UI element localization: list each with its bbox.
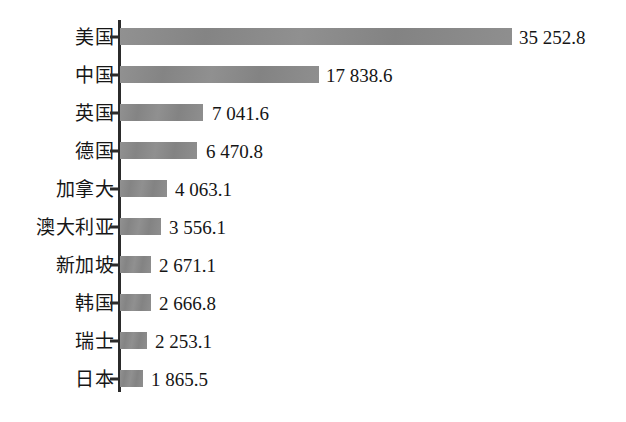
bar[interactable] — [120, 66, 319, 83]
category-label: 加拿大 — [56, 179, 115, 198]
category-label: 韩国 — [75, 293, 114, 312]
bar[interactable] — [120, 370, 143, 387]
plot-area: 美国 35 252.8 中国 17 838.6 英国 7 041.6 德国 6 … — [0, 0, 626, 422]
bar-row[interactable]: 日本 1 865.5 — [0, 370, 626, 387]
category-label: 美国 — [75, 27, 114, 46]
bar-row[interactable]: 德国 6 470.8 — [0, 142, 626, 159]
value-label: 6 470.8 — [206, 141, 263, 160]
bar[interactable] — [120, 294, 151, 311]
category-label: 日本 — [75, 369, 114, 388]
category-label: 澳大利亚 — [36, 217, 114, 236]
value-label: 7 041.6 — [212, 103, 269, 122]
value-label: 1 865.5 — [151, 369, 208, 388]
category-label: 新加坡 — [56, 255, 115, 274]
bar[interactable] — [120, 218, 161, 235]
page-footer-fragment — [0, 414, 626, 422]
bar-row[interactable]: 韩国 2 666.8 — [0, 294, 626, 311]
value-label: 35 252.8 — [519, 27, 586, 46]
value-label: 2 666.8 — [159, 293, 216, 312]
bar[interactable] — [120, 104, 203, 121]
bar-row[interactable]: 中国 17 838.6 — [0, 66, 626, 83]
bar-row[interactable]: 加拿大 4 063.1 — [0, 180, 626, 197]
value-label: 2 253.1 — [155, 331, 212, 350]
category-label: 德国 — [75, 141, 114, 160]
category-label: 英国 — [75, 103, 114, 122]
bar[interactable] — [120, 180, 167, 197]
bar-row[interactable]: 美国 35 252.8 — [0, 28, 626, 45]
bar[interactable] — [120, 28, 512, 45]
bar[interactable] — [120, 256, 151, 273]
bar-row[interactable]: 英国 7 041.6 — [0, 104, 626, 121]
bar-row[interactable]: 澳大利亚 3 556.1 — [0, 218, 626, 235]
value-label: 3 556.1 — [169, 217, 226, 236]
bar[interactable] — [120, 142, 197, 159]
horizontal-bar-chart: 美国 35 252.8 中国 17 838.6 英国 7 041.6 德国 6 … — [0, 0, 626, 422]
value-label: 4 063.1 — [175, 179, 232, 198]
value-label: 17 838.6 — [326, 65, 393, 84]
bar-row[interactable]: 新加坡 2 671.1 — [0, 256, 626, 273]
category-label: 中国 — [75, 65, 114, 84]
bar-row[interactable]: 瑞士 2 253.1 — [0, 332, 626, 349]
category-label: 瑞士 — [75, 331, 114, 350]
bar[interactable] — [120, 332, 147, 349]
value-label: 2 671.1 — [159, 255, 216, 274]
